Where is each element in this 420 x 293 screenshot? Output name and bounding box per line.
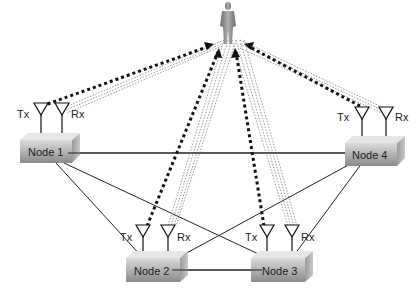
node-1: Node 1 bbox=[20, 133, 80, 163]
node3-tx-label: Tx bbox=[245, 231, 258, 243]
link-node1-node3 bbox=[64, 163, 267, 258]
node2-rx-label: Rx bbox=[177, 231, 191, 243]
node1-tx-label: Tx bbox=[17, 108, 30, 120]
tx-path-node1 bbox=[42, 46, 210, 106]
person-icon bbox=[220, 2, 236, 44]
arrowhead-icon bbox=[204, 42, 214, 50]
node2-label: Node 2 bbox=[134, 265, 169, 277]
transmit-paths bbox=[42, 46, 360, 226]
node3-rx-label: Rx bbox=[301, 231, 315, 243]
antenna-labels: Tx Rx Tx Rx Tx Rx Tx Rx bbox=[17, 108, 409, 243]
node4-label: Node 4 bbox=[352, 149, 387, 161]
node1-label: Node 1 bbox=[28, 146, 63, 158]
link-node3-node4 bbox=[292, 163, 362, 258]
tx-path-node2 bbox=[147, 52, 218, 226]
node4-tx-label: Tx bbox=[337, 111, 350, 123]
node-links bbox=[50, 153, 362, 270]
tx-path-node3 bbox=[236, 52, 264, 226]
node-3: Node 3 bbox=[251, 251, 313, 282]
node3-label: Node 3 bbox=[262, 265, 297, 277]
tx-path-node4 bbox=[248, 46, 360, 106]
link-node1-node2 bbox=[56, 163, 143, 258]
antennas bbox=[34, 103, 393, 258]
node4-rx-label: Rx bbox=[395, 111, 409, 123]
node1-rx-label: Rx bbox=[71, 108, 85, 120]
network-diagram: Tx Rx Tx Rx Tx Rx Tx Rx Node 1 Node 4 No… bbox=[0, 0, 420, 293]
node-4: Node 4 bbox=[345, 136, 405, 166]
node2-tx-label: Tx bbox=[120, 231, 133, 243]
node-2: Node 2 bbox=[126, 251, 188, 282]
